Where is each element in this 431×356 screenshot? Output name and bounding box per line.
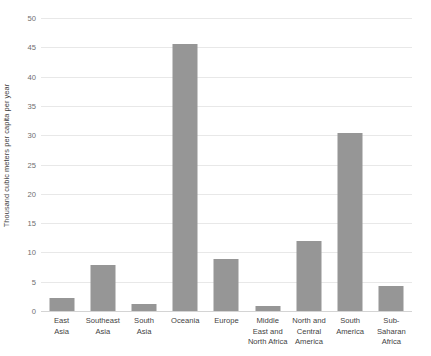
x-tick-label: SoutheastAsia [82, 316, 123, 337]
x-tick-label: EastAsia [41, 316, 82, 337]
y-tick-label: 30 [28, 131, 36, 140]
bar-slot [330, 18, 371, 311]
bar-slot [165, 18, 206, 311]
x-tick-label-line: Asia [82, 327, 123, 338]
bar-slot [82, 18, 123, 311]
x-tick-label-line: East and [247, 327, 288, 338]
bar[interactable] [90, 265, 115, 311]
bar-slot [206, 18, 247, 311]
x-tick-label-line: South [123, 316, 164, 327]
bar[interactable] [296, 241, 321, 311]
bar[interactable] [338, 133, 363, 311]
x-tick-label: Europe [206, 316, 247, 327]
x-tick-label-line: America [330, 327, 371, 338]
y-axis-title-text: Thousand cubic meters per capita per yea… [3, 84, 12, 228]
x-tick-label-line: Asia [41, 327, 82, 338]
x-tick-label-line: North and [288, 316, 329, 327]
bar[interactable] [132, 304, 157, 311]
x-tick-label-line: North Africa [247, 337, 288, 348]
x-tick-label: Sub-SaharanAfrica [371, 316, 412, 348]
bar[interactable] [173, 44, 198, 311]
y-tick-label: 15 [28, 219, 36, 228]
y-axis-title: Thousand cubic meters per capita per yea… [0, 0, 14, 311]
bar[interactable] [255, 306, 280, 311]
x-tick-label-line: Central [288, 327, 329, 338]
y-tick-label: 0 [32, 307, 36, 316]
bar-slot [123, 18, 164, 311]
x-tick-label-line: Saharan [371, 327, 412, 338]
x-tick-label-line: Southeast [82, 316, 123, 327]
x-tick-label-line: Europe [206, 316, 247, 327]
bar[interactable] [49, 298, 74, 311]
x-tick-label-line: Asia [123, 327, 164, 338]
gridline [41, 311, 412, 312]
x-tick-label: MiddleEast andNorth Africa [247, 316, 288, 348]
x-tick-label-line: Middle [247, 316, 288, 327]
y-tick-label: 25 [28, 160, 36, 169]
y-tick-label: 10 [28, 248, 36, 257]
x-tick-label-line: Oceania [165, 316, 206, 327]
y-tick-label: 35 [28, 101, 36, 110]
x-tick-label: North andCentralAmerica [288, 316, 329, 348]
x-axis-labels: EastAsiaSoutheastAsiaSouthAsiaOceaniaEur… [41, 313, 412, 356]
y-tick-label: 50 [28, 14, 36, 23]
bar-chart: Thousand cubic meters per capita per yea… [0, 0, 431, 356]
bar-slot [288, 18, 329, 311]
y-tick-label: 40 [28, 72, 36, 81]
bar-slot [41, 18, 82, 311]
bar[interactable] [214, 259, 239, 311]
x-tick-label: Oceania [165, 316, 206, 327]
bars-layer [41, 18, 412, 311]
x-tick-label-line: America [288, 337, 329, 348]
x-tick-label-line: Africa [371, 337, 412, 348]
x-tick-label-line: East [41, 316, 82, 327]
y-tick-label: 20 [28, 189, 36, 198]
bar-slot [371, 18, 412, 311]
x-tick-label-line: South [330, 316, 371, 327]
x-tick-label-line: Sub- [371, 316, 412, 327]
plot-area: 05101520253035404550 [41, 18, 412, 311]
bar-slot [247, 18, 288, 311]
bar[interactable] [379, 286, 404, 311]
y-tick-label: 45 [28, 43, 36, 52]
x-tick-label: SouthAmerica [330, 316, 371, 337]
y-tick-label: 5 [32, 277, 36, 286]
x-tick-label: SouthAsia [123, 316, 164, 337]
